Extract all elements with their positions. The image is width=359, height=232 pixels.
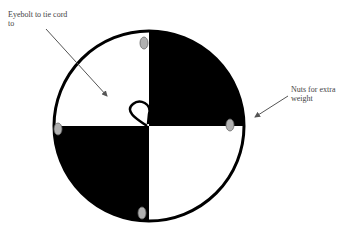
secchi-disk-diagram	[0, 0, 359, 232]
nut-bottom	[138, 207, 146, 219]
nut-right	[226, 119, 234, 131]
nuts-arrow	[255, 96, 288, 117]
nut-left	[54, 123, 62, 135]
nut-top	[140, 37, 148, 49]
